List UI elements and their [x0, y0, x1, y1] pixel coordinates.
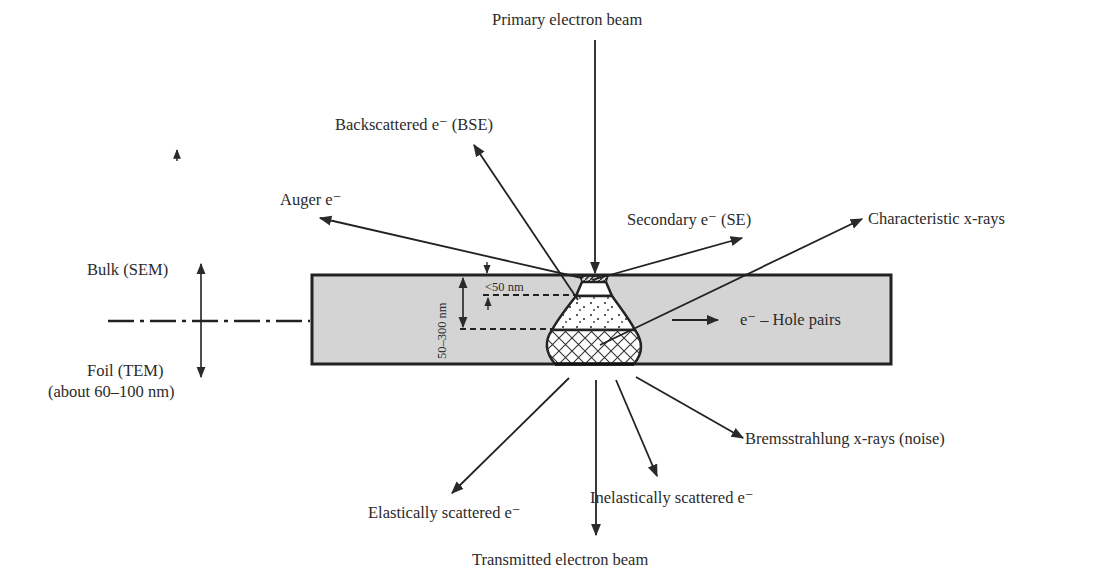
label-depth-small: <50 nm	[485, 281, 524, 294]
label-auger: Auger e⁻	[280, 192, 341, 209]
label-foil-thickness: (about 60–100 nm)	[48, 384, 174, 401]
label-primary-beam: Primary electron beam	[492, 12, 642, 29]
label-char-xray: Characteristic x-rays	[868, 211, 1005, 228]
label-se: Secondary e⁻ (SE)	[627, 212, 751, 229]
brems-arrow	[636, 377, 743, 438]
label-bse: Backscattered e⁻ (BSE)	[335, 117, 493, 134]
interaction-diagram	[0, 0, 1098, 585]
label-depth-large: 50–300 nm	[436, 302, 449, 359]
label-brems: Bremsstrahlung x-rays (noise)	[745, 431, 945, 448]
label-foil: Foil (TEM)	[87, 363, 164, 380]
label-transmitted: Transmitted electron beam	[472, 552, 648, 569]
label-elastic: Elastically scattered e⁻	[368, 505, 521, 522]
label-inelastic: Inelastically scattered e⁻	[590, 490, 754, 507]
inelastic-arrow	[616, 380, 657, 476]
label-bulk: Bulk (SEM)	[87, 262, 168, 279]
elastic-arrow	[452, 378, 569, 493]
label-hole-pairs: e⁻ – Hole pairs	[740, 312, 841, 329]
